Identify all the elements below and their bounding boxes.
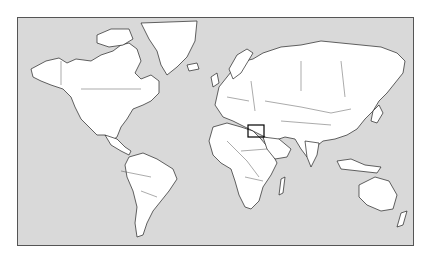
new-zealand [397,211,407,227]
world-map-frame [17,17,414,246]
australia [359,177,397,211]
south-america [125,153,177,237]
se-asia-islands [337,159,381,173]
iceland [187,63,199,71]
north-america [31,43,159,141]
india [305,141,319,167]
central-america [105,135,131,155]
world-map [18,18,414,246]
madagascar [279,177,285,195]
uk [211,73,219,87]
